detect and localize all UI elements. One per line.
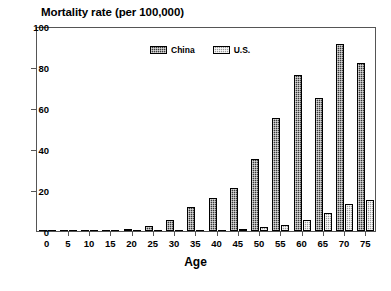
bar-us-age-75 — [366, 200, 374, 231]
bar-group — [187, 28, 205, 231]
x-axis-tick-mark — [344, 232, 345, 236]
bar-china-age-20 — [124, 229, 132, 231]
x-axis-tick-label: 0 — [36, 238, 58, 249]
x-axis-tick-mark — [47, 232, 48, 236]
x-axis-tick-mark — [110, 232, 111, 236]
bar-group — [209, 28, 227, 231]
chart-title: Mortality rate (per 100,000) — [41, 6, 184, 18]
bar-china-age-50 — [251, 159, 259, 231]
y-axis-tick-mark — [31, 68, 36, 69]
bar-us-age-50 — [260, 227, 268, 231]
bar-china-age-25 — [145, 226, 153, 231]
bar-group — [39, 28, 57, 231]
x-axis-tick-mark — [238, 232, 239, 236]
x-axis-tick-mark — [132, 232, 133, 236]
bar-us-age-15 — [111, 230, 119, 231]
bar-group — [336, 28, 354, 231]
x-axis-tick-mark — [259, 232, 260, 236]
x-axis-tick-label: 20 — [121, 238, 143, 249]
bar-china-age-55 — [272, 118, 280, 231]
x-axis-tick-label: 30 — [163, 238, 185, 249]
x-axis-tick-label: 70 — [333, 238, 355, 249]
bar-us-age-35 — [196, 230, 204, 231]
x-axis-tick-label: 35 — [184, 238, 206, 249]
bar-china-age-40 — [209, 198, 217, 231]
x-axis-tick-label: 65 — [312, 238, 334, 249]
x-axis-tick-mark — [217, 232, 218, 236]
bar-group — [251, 28, 269, 231]
x-axis-tick-mark — [365, 232, 366, 236]
legend-swatch-us — [213, 46, 230, 54]
bar-group — [60, 28, 78, 231]
bar-china-age-70 — [336, 44, 344, 231]
bar-group — [81, 28, 99, 231]
bar-us-age-40 — [218, 230, 226, 231]
bar-china-age-45 — [230, 188, 238, 231]
y-axis-tick-label: 0 — [21, 227, 49, 238]
x-axis-tick-label: 5 — [57, 238, 79, 249]
x-axis-tick-mark — [280, 232, 281, 236]
bar-china-age-30 — [166, 220, 174, 231]
bar-group — [166, 28, 184, 231]
bar-us-age-20 — [133, 230, 141, 231]
bars-layer — [37, 28, 375, 231]
bar-group — [102, 28, 120, 231]
bar-group — [124, 28, 142, 231]
bar-us-age-60 — [303, 220, 311, 231]
legend-label-us: U.S. — [234, 45, 251, 55]
bar-china-age-35 — [187, 207, 195, 231]
chart-legend: ChinaU.S. — [150, 45, 250, 55]
y-axis-tick-mark — [31, 109, 36, 110]
y-axis-tick-mark — [31, 150, 36, 151]
bar-us-age-5 — [69, 230, 77, 231]
bar-us-age-45 — [239, 229, 247, 231]
x-axis-tick-mark — [195, 232, 196, 236]
mortality-rate-bar-chart: Mortality rate (per 100,000) ChinaU.S. A… — [0, 0, 391, 291]
legend-label-china: China — [171, 45, 195, 55]
x-axis-tick-label: 45 — [227, 238, 249, 249]
bar-china-age-75 — [357, 63, 365, 231]
bar-group — [272, 28, 290, 231]
bar-china-age-15 — [102, 230, 110, 231]
legend-entry-us[interactable]: U.S. — [213, 45, 251, 55]
bar-us-age-55 — [281, 225, 289, 231]
x-axis-tick-label: 40 — [206, 238, 228, 249]
x-axis-tick-label: 75 — [354, 238, 376, 249]
x-axis-tick-mark — [153, 232, 154, 236]
bar-group — [357, 28, 375, 231]
x-axis-tick-label: 10 — [78, 238, 100, 249]
x-axis-tick-label: 60 — [291, 238, 313, 249]
legend-swatch-china — [150, 46, 167, 54]
bar-us-age-30 — [175, 230, 183, 231]
x-axis-tick-mark — [302, 232, 303, 236]
x-axis-tick-label: 15 — [99, 238, 121, 249]
legend-entry-china[interactable]: China — [150, 45, 195, 55]
bar-china-age-65 — [315, 98, 323, 231]
bar-us-age-70 — [345, 204, 353, 231]
bar-china-age-5 — [60, 230, 68, 231]
bar-group — [315, 28, 333, 231]
y-axis-tick-mark — [31, 191, 36, 192]
bar-china-age-60 — [294, 75, 302, 231]
x-axis-tick-label: 25 — [142, 238, 164, 249]
x-axis-tick-mark — [68, 232, 69, 236]
y-axis-tick-label: 100 — [21, 22, 49, 33]
bar-group — [294, 28, 312, 231]
plot-area — [36, 27, 376, 232]
bar-china-age-10 — [81, 230, 89, 231]
bar-us-age-25 — [154, 230, 162, 231]
bar-us-age-65 — [324, 213, 332, 231]
bar-group — [145, 28, 163, 231]
bar-us-age-10 — [90, 230, 98, 231]
x-axis-tick-label: 50 — [248, 238, 270, 249]
x-axis-tick-mark — [174, 232, 175, 236]
x-axis-tick-mark — [323, 232, 324, 236]
bar-group — [230, 28, 248, 231]
x-axis-tick-label: 55 — [269, 238, 291, 249]
x-axis-title: Age — [0, 255, 391, 269]
x-axis-tick-mark — [89, 232, 90, 236]
